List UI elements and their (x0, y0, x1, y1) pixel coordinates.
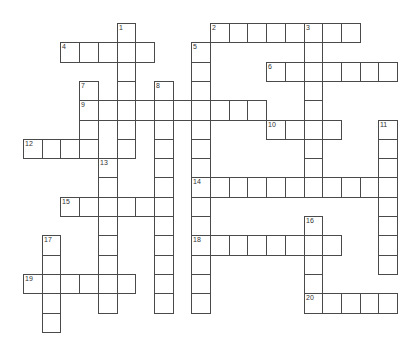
crossword-cell[interactable]: 18 (191, 235, 211, 256)
crossword-cell[interactable] (247, 23, 267, 43)
crossword-cell[interactable] (117, 274, 136, 294)
crossword-cell[interactable]: 3 (304, 23, 323, 43)
crossword-cell[interactable] (191, 81, 211, 101)
crossword-cell[interactable]: 10 (266, 120, 286, 140)
crossword-cell[interactable] (322, 62, 342, 82)
crossword-cell[interactable] (191, 139, 211, 159)
crossword-cell[interactable] (60, 274, 80, 294)
crossword-cell[interactable] (117, 100, 136, 121)
crossword-cell[interactable]: 1 (117, 23, 136, 43)
crossword-cell[interactable] (117, 42, 136, 63)
crossword-cell[interactable] (191, 120, 211, 140)
crossword-cell[interactable] (304, 42, 323, 63)
crossword-cell[interactable]: 5 (191, 42, 211, 63)
crossword-cell[interactable] (98, 274, 118, 294)
crossword-cell[interactable] (117, 62, 136, 82)
crossword-cell[interactable] (154, 100, 174, 121)
crossword-cell[interactable] (378, 62, 398, 82)
crossword-cell[interactable] (154, 139, 174, 159)
crossword-cell[interactable] (42, 313, 61, 333)
crossword-cell[interactable] (117, 81, 136, 101)
crossword-cell[interactable] (378, 139, 398, 159)
crossword-cell[interactable]: 8 (154, 81, 174, 101)
crossword-cell[interactable] (117, 197, 136, 217)
crossword-cell[interactable]: 7 (79, 81, 99, 101)
crossword-cell[interactable] (322, 177, 342, 198)
crossword-cell[interactable] (341, 293, 361, 314)
crossword-cell[interactable] (191, 274, 211, 294)
crossword-cell[interactable] (210, 177, 230, 198)
crossword-cell[interactable] (304, 120, 323, 140)
crossword-cell[interactable] (98, 197, 118, 217)
crossword-cell[interactable] (79, 197, 99, 217)
crossword-cell[interactable] (378, 235, 398, 256)
crossword-cell[interactable] (191, 100, 211, 121)
crossword-cell[interactable] (378, 158, 398, 178)
crossword-cell[interactable] (154, 197, 174, 217)
crossword-cell[interactable] (378, 255, 398, 275)
crossword-cell[interactable] (322, 235, 342, 256)
crossword-cell[interactable] (117, 120, 136, 140)
crossword-cell[interactable] (42, 293, 61, 314)
crossword-cell[interactable] (42, 139, 61, 159)
crossword-cell[interactable]: 20 (304, 293, 323, 314)
crossword-cell[interactable] (304, 274, 323, 294)
crossword-cell[interactable] (304, 139, 323, 159)
crossword-cell[interactable] (154, 158, 174, 178)
crossword-cell[interactable] (98, 216, 118, 236)
crossword-cell[interactable]: 2 (210, 23, 230, 43)
crossword-cell[interactable]: 11 (378, 120, 398, 140)
crossword-cell[interactable] (285, 120, 305, 140)
crossword-cell[interactable] (191, 197, 211, 217)
crossword-cell[interactable] (322, 293, 342, 314)
crossword-cell[interactable] (322, 23, 342, 43)
crossword-cell[interactable] (285, 23, 305, 43)
crossword-cell[interactable] (266, 235, 286, 256)
crossword-cell[interactable] (341, 62, 361, 82)
crossword-cell[interactable] (191, 216, 211, 236)
crossword-cell[interactable] (79, 120, 99, 140)
crossword-cell[interactable]: 6 (266, 62, 286, 82)
crossword-cell[interactable]: 15 (60, 197, 80, 217)
crossword-cell[interactable] (247, 235, 267, 256)
crossword-cell[interactable] (210, 235, 230, 256)
crossword-cell[interactable] (117, 139, 136, 159)
crossword-cell[interactable] (229, 23, 248, 43)
crossword-cell[interactable] (304, 81, 323, 101)
crossword-cell[interactable] (154, 216, 174, 236)
crossword-cell[interactable] (154, 293, 174, 314)
crossword-cell[interactable] (135, 42, 155, 63)
crossword-cell[interactable] (98, 293, 118, 314)
crossword-cell[interactable]: 19 (23, 274, 43, 294)
crossword-cell[interactable] (304, 100, 323, 121)
crossword-cell[interactable] (191, 293, 211, 314)
crossword-cell[interactable] (360, 293, 379, 314)
crossword-cell[interactable]: 4 (60, 42, 80, 63)
crossword-cell[interactable] (191, 255, 211, 275)
crossword-cell[interactable] (98, 177, 118, 198)
crossword-cell[interactable] (304, 177, 323, 198)
crossword-cell[interactable]: 17 (42, 235, 61, 256)
crossword-cell[interactable]: 12 (23, 139, 43, 159)
crossword-cell[interactable] (341, 177, 361, 198)
crossword-cell[interactable]: 16 (304, 216, 323, 236)
crossword-cell[interactable] (42, 255, 61, 275)
crossword-cell[interactable] (191, 62, 211, 82)
crossword-cell[interactable]: 14 (191, 177, 211, 198)
crossword-cell[interactable] (266, 23, 286, 43)
crossword-cell[interactable] (98, 42, 118, 63)
crossword-cell[interactable] (79, 274, 99, 294)
crossword-cell[interactable] (285, 235, 305, 256)
crossword-cell[interactable] (229, 100, 248, 121)
crossword-cell[interactable] (60, 139, 80, 159)
crossword-cell[interactable] (79, 42, 99, 63)
crossword-cell[interactable] (378, 216, 398, 236)
crossword-cell[interactable] (98, 255, 118, 275)
crossword-cell[interactable] (135, 100, 155, 121)
crossword-cell[interactable] (304, 235, 323, 256)
crossword-cell[interactable] (135, 197, 155, 217)
crossword-cell[interactable] (98, 235, 118, 256)
crossword-cell[interactable] (341, 23, 361, 43)
crossword-cell[interactable] (42, 274, 61, 294)
crossword-cell[interactable] (154, 177, 174, 198)
